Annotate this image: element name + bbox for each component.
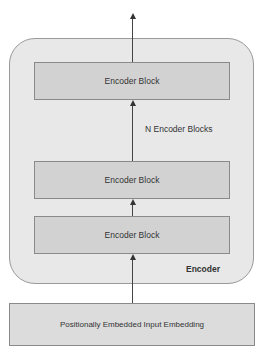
input-embedding-block: Positionally Embedded Input Embedding [9,303,255,346]
encoder-block-top: Encoder Block [34,62,230,100]
connector-line [132,204,133,216]
arrowhead-icon [130,100,136,106]
encoder-block-label: Encoder Block [105,230,160,240]
arrowhead-icon [130,254,136,260]
repeat-label: N Encoder Blocks [145,124,213,134]
output-arrowhead-icon [130,13,136,19]
repeat-connector-line [132,106,133,161]
encoder-block-label: Encoder Block [105,175,160,185]
encoder-block-middle: Encoder Block [34,161,230,199]
input-arrow-line [132,259,133,303]
output-arrow-line [132,18,133,62]
encoder-label: Encoder [186,264,220,274]
input-embedding-label: Positionally Embedded Input Embedding [60,320,204,329]
encoder-block-label: Encoder Block [105,76,160,86]
encoder-block-bottom: Encoder Block [34,216,230,254]
arrowhead-icon [130,199,136,205]
